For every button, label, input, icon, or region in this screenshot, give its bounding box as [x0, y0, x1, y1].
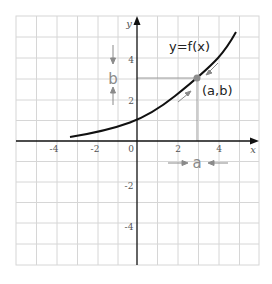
tick-x-2: 2: [175, 144, 181, 154]
tick-origin: 0: [128, 144, 134, 154]
tick-x-neg2: -2: [91, 144, 100, 154]
y-axis-arrow-icon: [134, 16, 141, 25]
label-a: a: [192, 154, 201, 172]
tick-y-2: 2: [128, 96, 134, 106]
x-axis-label: x: [250, 144, 256, 155]
y-axis-label: y: [125, 18, 132, 29]
label-b: b: [108, 70, 118, 88]
tick-x-4: 4: [216, 144, 222, 154]
curve-arrow-down-left-head-icon: [206, 70, 212, 75]
guide-lines: [137, 78, 197, 141]
curve-label: y=f(x): [169, 39, 210, 54]
arrow-down-head-icon: [111, 58, 116, 64]
tick-y-neg2: -2: [125, 181, 134, 191]
point-label: (a,b): [202, 83, 233, 98]
function-graph: -4 -2 0 2 4 x 4 2 -2 -4 y b a y=f(x) (a,: [0, 0, 272, 284]
point-a-b: [194, 75, 201, 82]
tick-y-4: 4: [128, 55, 134, 65]
tick-y-neg4: -4: [125, 222, 134, 232]
tick-x-neg4: -4: [50, 144, 59, 154]
